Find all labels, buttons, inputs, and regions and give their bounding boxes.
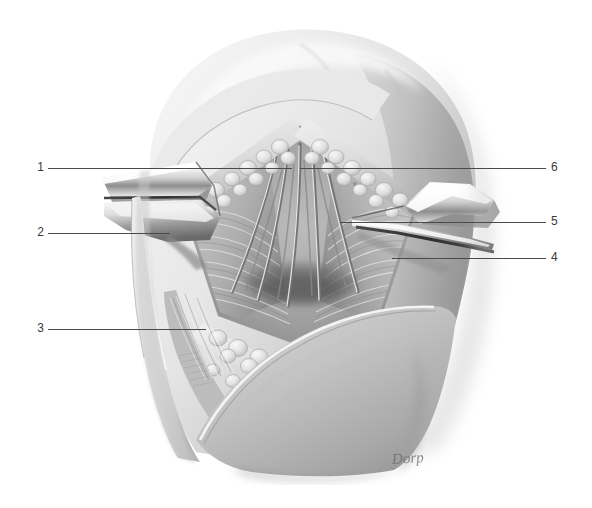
label-number-5: 5 <box>551 215 565 227</box>
label-number-6: 6 <box>551 161 565 173</box>
anatomical-figure <box>0 0 592 508</box>
leader-line-5 <box>340 222 546 223</box>
artist-signature: Dorp <box>391 449 424 468</box>
leader-line-6 <box>300 168 546 169</box>
leader-line-4 <box>392 258 546 259</box>
label-number-2: 2 <box>32 226 44 238</box>
leader-line-3 <box>48 329 206 330</box>
leader-line-1 <box>48 168 292 169</box>
label-number-4: 4 <box>551 251 565 263</box>
leader-line-2 <box>48 233 170 234</box>
label-number-1: 1 <box>32 161 44 173</box>
illustration-canvas: 1 2 3 6 5 4 Dorp <box>0 0 592 508</box>
label-number-3: 3 <box>32 322 44 334</box>
